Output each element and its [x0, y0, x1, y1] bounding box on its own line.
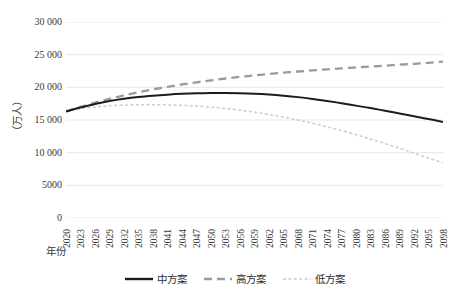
x-axis-tick-label: 2029 — [106, 229, 116, 248]
series-lines — [66, 62, 443, 163]
series-line — [66, 93, 443, 122]
x-axis-tick-label: 2098 — [440, 229, 450, 248]
x-axis-tick-label: 2050 — [208, 229, 218, 248]
x-axis-tick-label: 2023 — [77, 229, 87, 248]
x-axis-title: 年份 — [46, 243, 66, 258]
legend-swatch-solid — [125, 274, 153, 284]
legend-item[interactable]: 中方案 — [125, 274, 187, 285]
x-axis-tick-label: 2095 — [425, 229, 435, 248]
plot-svg — [66, 22, 443, 218]
x-axis-tick-label: 2065 — [280, 229, 290, 248]
y-axis-tick-label: 25 000 — [0, 50, 62, 60]
x-axis-tick-label: 2068 — [295, 229, 305, 248]
legend-label: 低方案 — [315, 274, 345, 285]
x-axis-tick-label: 2056 — [237, 229, 247, 248]
series-line — [66, 62, 443, 112]
legend-label: 中方案 — [157, 274, 187, 285]
x-axis-tick-label: 2092 — [411, 229, 421, 248]
y-axis-tick-label: 15 000 — [0, 115, 62, 125]
gridlines — [66, 22, 443, 218]
legend-item[interactable]: 低方案 — [283, 274, 345, 285]
legend-swatch-dotted — [283, 274, 311, 284]
x-axis-tick-label: 2047 — [193, 229, 203, 248]
x-axis-tick-label: 2077 — [338, 229, 348, 248]
series-line — [66, 105, 443, 163]
x-axis-tick-label: 2053 — [222, 229, 232, 248]
plot-area — [66, 22, 443, 218]
x-axis-tick-labels: 2020202320262029203220352038204120442047… — [66, 221, 443, 265]
population-projection-chart: （万人） 0500010 00015 00020 00025 00030 000… — [0, 0, 470, 291]
x-axis-tick-label: 2074 — [324, 229, 334, 248]
x-axis-tick-label: 2086 — [382, 229, 392, 248]
x-axis-tick-label: 2071 — [309, 229, 319, 248]
legend-item[interactable]: 高方案 — [204, 274, 266, 285]
x-axis-tick-label: 2080 — [353, 229, 363, 248]
x-axis-tick-label: 2026 — [92, 229, 102, 248]
x-axis-tick-label: 2032 — [121, 229, 131, 248]
x-axis-tick-label: 2038 — [150, 229, 160, 248]
chart-legend: 中方案高方案低方案 — [0, 269, 470, 289]
y-axis-tick-label: 0 — [0, 213, 62, 223]
x-axis-tick-label: 2041 — [164, 229, 174, 248]
x-axis-tick-label: 2062 — [266, 229, 276, 248]
x-axis-tick-label: 2035 — [135, 229, 145, 248]
y-axis-tick-label: 10 000 — [0, 148, 62, 158]
y-axis-tick-label: 30 000 — [0, 17, 62, 27]
y-axis-tick-label: 5000 — [0, 180, 62, 190]
x-axis-tick-label: 2059 — [251, 229, 261, 248]
x-axis-tick-label: 2044 — [179, 229, 189, 248]
legend-swatch-dashed — [204, 274, 232, 284]
x-axis-tick-label: 2083 — [367, 229, 377, 248]
x-axis-tick-label: 2089 — [396, 229, 406, 248]
legend-label: 高方案 — [236, 274, 266, 285]
y-axis-tick-label: 20 000 — [0, 82, 62, 92]
